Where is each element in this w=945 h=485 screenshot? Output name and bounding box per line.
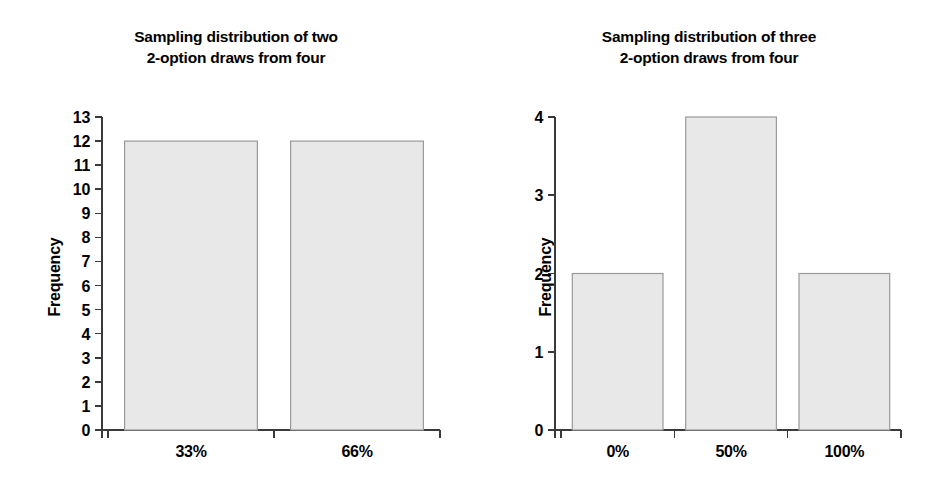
bar (125, 141, 258, 430)
figure-root: Sampling distribution of two2-option dra… (0, 0, 945, 485)
plot-svg-left: 01234567891011121333%66% (0, 0, 472, 485)
x-tick-label: 50% (715, 443, 746, 460)
y-tick-label: 8 (81, 229, 90, 246)
y-tick-label: 1 (81, 398, 90, 415)
y-tick-label: 2 (534, 266, 543, 283)
y-tick-label: 5 (81, 302, 90, 319)
y-tick-label: 3 (534, 187, 543, 204)
plot-area-left: 01234567891011121333%66% (0, 0, 472, 485)
x-tick-label: 33% (175, 443, 206, 460)
y-tick-label: 9 (81, 205, 90, 222)
y-tick-label: 10 (73, 181, 91, 198)
bar (799, 274, 890, 431)
bar (572, 274, 663, 431)
y-tick-label: 12 (73, 133, 91, 150)
chart-panel-right: Sampling distribution of three2-option d… (473, 0, 945, 485)
y-tick-label: 0 (534, 422, 543, 439)
plot-svg-right: 012340%50%100% (473, 0, 945, 485)
x-tick-label: 66% (341, 443, 372, 460)
y-tick-label: 4 (534, 109, 543, 126)
y-tick-label: 7 (81, 253, 90, 270)
y-tick-label: 0 (81, 422, 90, 439)
y-tick-label: 2 (81, 374, 90, 391)
y-tick-label: 11 (74, 157, 91, 174)
y-tick-label: 1 (534, 344, 543, 361)
chart-panel-left: Sampling distribution of two2-option dra… (0, 0, 472, 485)
y-tick-label: 6 (81, 278, 90, 295)
bar (291, 141, 424, 430)
x-tick-label: 100% (824, 443, 864, 460)
x-tick-label: 0% (606, 443, 629, 460)
y-tick-label: 13 (73, 109, 91, 126)
y-tick-label: 4 (81, 326, 90, 343)
plot-area-right: 012340%50%100% (473, 0, 945, 485)
y-tick-label: 3 (81, 350, 90, 367)
bar (686, 117, 777, 430)
